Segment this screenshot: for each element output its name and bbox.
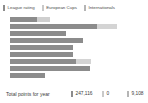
total-value: 9,108	[132, 91, 144, 97]
total-value: 0	[107, 91, 110, 97]
total-value: 247,116	[76, 91, 93, 97]
legend-item-internationals[interactable]: Internationals	[84, 5, 115, 11]
legend-swatch-icon	[102, 91, 104, 97]
stacked-bar-chart-widget: League rating European Cups Internationa…	[0, 0, 148, 103]
total-european-cups: 0	[102, 91, 109, 97]
legend-swatch-icon	[127, 91, 129, 97]
total-league-rating: 247,116	[71, 91, 92, 97]
totals-label: Total points for year	[6, 91, 50, 98]
bar-segment-european-cups	[37, 17, 50, 22]
table-row[interactable]	[10, 24, 140, 29]
bar-segment-league-rating	[10, 66, 90, 71]
legend-item-label: Internationals	[88, 5, 115, 11]
table-row[interactable]	[10, 38, 140, 43]
bar-segment-european-cups	[97, 24, 117, 29]
bar-segment-league-rating	[10, 38, 83, 43]
bar-segment-league-rating	[10, 17, 37, 22]
bar-segment-league-rating	[10, 73, 45, 78]
legend-item-european-cups[interactable]: European Cups	[42, 5, 77, 11]
legend-item-league-rating[interactable]: League rating	[3, 5, 35, 11]
table-row[interactable]	[10, 59, 140, 64]
bar-segment-league-rating	[10, 24, 97, 29]
totals-footer: Total points for year 247,116 0 9,108	[0, 85, 148, 103]
bar-segment-league-rating	[10, 31, 66, 36]
table-row[interactable]	[10, 66, 140, 71]
legend-item-label: League rating	[8, 5, 35, 11]
table-row[interactable]	[10, 31, 140, 36]
table-row[interactable]	[10, 52, 140, 57]
table-row[interactable]	[10, 73, 140, 78]
chart-legend: League rating European Cups Internationa…	[0, 0, 148, 15]
legend-swatch-icon	[84, 5, 86, 11]
bars-plot-area	[10, 17, 140, 81]
legend-swatch-icon	[3, 5, 5, 11]
bar-segment-european-cups	[76, 59, 91, 64]
legend-swatch-icon	[42, 5, 44, 11]
bar-segment-league-rating	[10, 59, 76, 64]
legend-item-label: European Cups	[46, 5, 77, 11]
legend-swatch-icon	[71, 91, 73, 97]
total-internationals: 9,108	[127, 91, 144, 97]
table-row[interactable]	[10, 45, 140, 50]
bar-segment-league-rating	[10, 52, 73, 57]
bar-segment-league-rating	[10, 45, 73, 50]
table-row[interactable]	[10, 17, 140, 22]
